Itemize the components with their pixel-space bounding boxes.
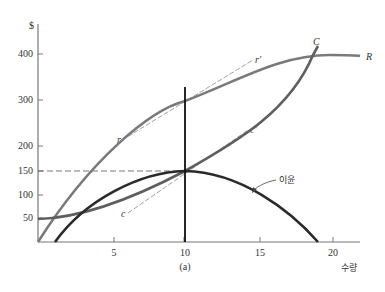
cost-curve-C xyxy=(38,46,318,219)
tangent-r-prime-label: r' xyxy=(255,54,262,65)
cost-curve-label: C xyxy=(313,36,320,47)
y-tick-400: 400 xyxy=(18,48,33,59)
y-unit-label: $ xyxy=(29,20,34,31)
profit-curve-label: 이윤 xyxy=(279,175,295,185)
revenue-curve-R xyxy=(38,55,360,242)
x-tick-15: 15 xyxy=(255,247,265,258)
revenue-curve-label: R xyxy=(365,51,372,62)
y-ticks xyxy=(38,54,43,218)
x-ticks xyxy=(114,237,333,242)
profit-label-arrow xyxy=(254,180,276,190)
profit-maximization-chart: $ 50 100 150 200 300 400 5 10 15 20 수량 (… xyxy=(0,0,385,292)
y-tick-100: 100 xyxy=(18,189,33,200)
y-tick-50: 50 xyxy=(23,212,33,223)
x-axis-label: 수량 xyxy=(341,262,357,273)
x-tick-10: 10 xyxy=(180,247,190,258)
y-tick-150: 150 xyxy=(18,165,33,176)
x-tick-20: 20 xyxy=(328,247,338,258)
x-tick-5: 5 xyxy=(112,247,117,258)
figure-caption: (a) xyxy=(179,261,190,273)
tangent-c-label: c xyxy=(121,208,126,219)
y-tick-300: 300 xyxy=(18,94,33,105)
y-tick-200: 200 xyxy=(18,140,33,151)
